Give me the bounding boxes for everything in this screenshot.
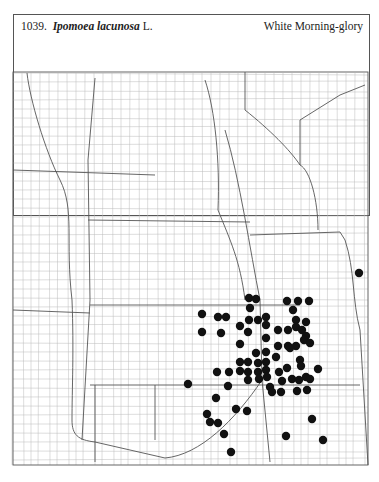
occurrence-dot xyxy=(293,387,301,395)
occurrence-dot xyxy=(244,376,252,384)
occurrence-dot xyxy=(272,353,280,361)
occurrence-dot xyxy=(236,340,244,348)
occurrence-dot xyxy=(294,297,302,305)
occurrence-dot xyxy=(274,342,282,350)
occurrence-dot xyxy=(236,367,244,375)
occurrence-dot xyxy=(262,334,270,342)
occurrence-dot xyxy=(244,358,252,366)
occurrence-dot xyxy=(268,388,276,396)
occurrence-dot xyxy=(184,380,192,388)
occurrence-dot xyxy=(254,359,262,367)
occurrence-dot xyxy=(236,322,244,330)
occurrence-dot xyxy=(198,310,206,318)
occurrence-dot xyxy=(355,269,363,277)
occurrence-dot xyxy=(220,430,228,438)
occurrence-dot xyxy=(222,313,230,321)
occurrence-dot xyxy=(282,432,290,440)
occurrence-dot xyxy=(263,373,271,381)
occurrence-dot xyxy=(214,313,222,321)
occurrence-dot xyxy=(198,328,206,336)
occurrence-dot xyxy=(274,326,282,334)
occurrence-dot xyxy=(306,375,314,383)
occurrence-dot xyxy=(225,368,233,376)
occurrence-dots xyxy=(184,269,363,456)
occurrence-dot xyxy=(262,321,270,329)
occurrence-dot xyxy=(275,368,283,376)
occurrence-dot xyxy=(319,436,327,444)
occurrence-dot xyxy=(277,388,285,396)
occurrence-dot xyxy=(305,297,313,305)
occurrence-dot xyxy=(206,418,214,426)
occurrence-dot xyxy=(302,318,310,326)
occurrence-dot xyxy=(303,386,311,394)
occurrence-dot xyxy=(244,328,252,336)
occurrence-dot xyxy=(255,375,263,383)
distribution-map xyxy=(0,0,379,482)
occurrence-dot xyxy=(214,419,222,427)
occurrence-dot xyxy=(254,316,262,324)
occurrence-dot xyxy=(306,339,314,347)
occurrence-dot xyxy=(246,304,254,312)
occurrence-dot xyxy=(284,326,292,334)
occurrence-dot xyxy=(252,349,260,357)
occurrence-dot xyxy=(295,376,303,384)
occurrence-dot xyxy=(232,405,240,413)
occurrence-dot xyxy=(283,364,291,372)
occurrence-dot xyxy=(252,295,260,303)
occurrence-dot xyxy=(236,358,244,366)
occurrence-dot xyxy=(289,306,297,314)
occurrence-dot xyxy=(314,365,322,373)
occurrence-dot xyxy=(243,407,251,415)
occurrence-dot xyxy=(262,358,270,366)
occurrence-dot xyxy=(308,415,316,423)
occurrence-dot xyxy=(283,297,291,305)
occurrence-dot xyxy=(297,362,305,370)
occurrence-dot xyxy=(278,377,286,385)
occurrence-dot xyxy=(286,344,294,352)
occurrence-dot xyxy=(244,368,252,376)
occurrence-dot xyxy=(217,329,225,337)
occurrence-dot xyxy=(262,348,270,356)
occurrence-dot xyxy=(203,410,211,418)
occurrence-dot xyxy=(212,394,220,402)
occurrence-dot xyxy=(227,448,235,456)
occurrence-dot xyxy=(213,368,221,376)
occurrence-dot xyxy=(224,382,232,390)
occurrence-dot xyxy=(262,313,270,321)
occurrence-dot xyxy=(245,316,253,324)
